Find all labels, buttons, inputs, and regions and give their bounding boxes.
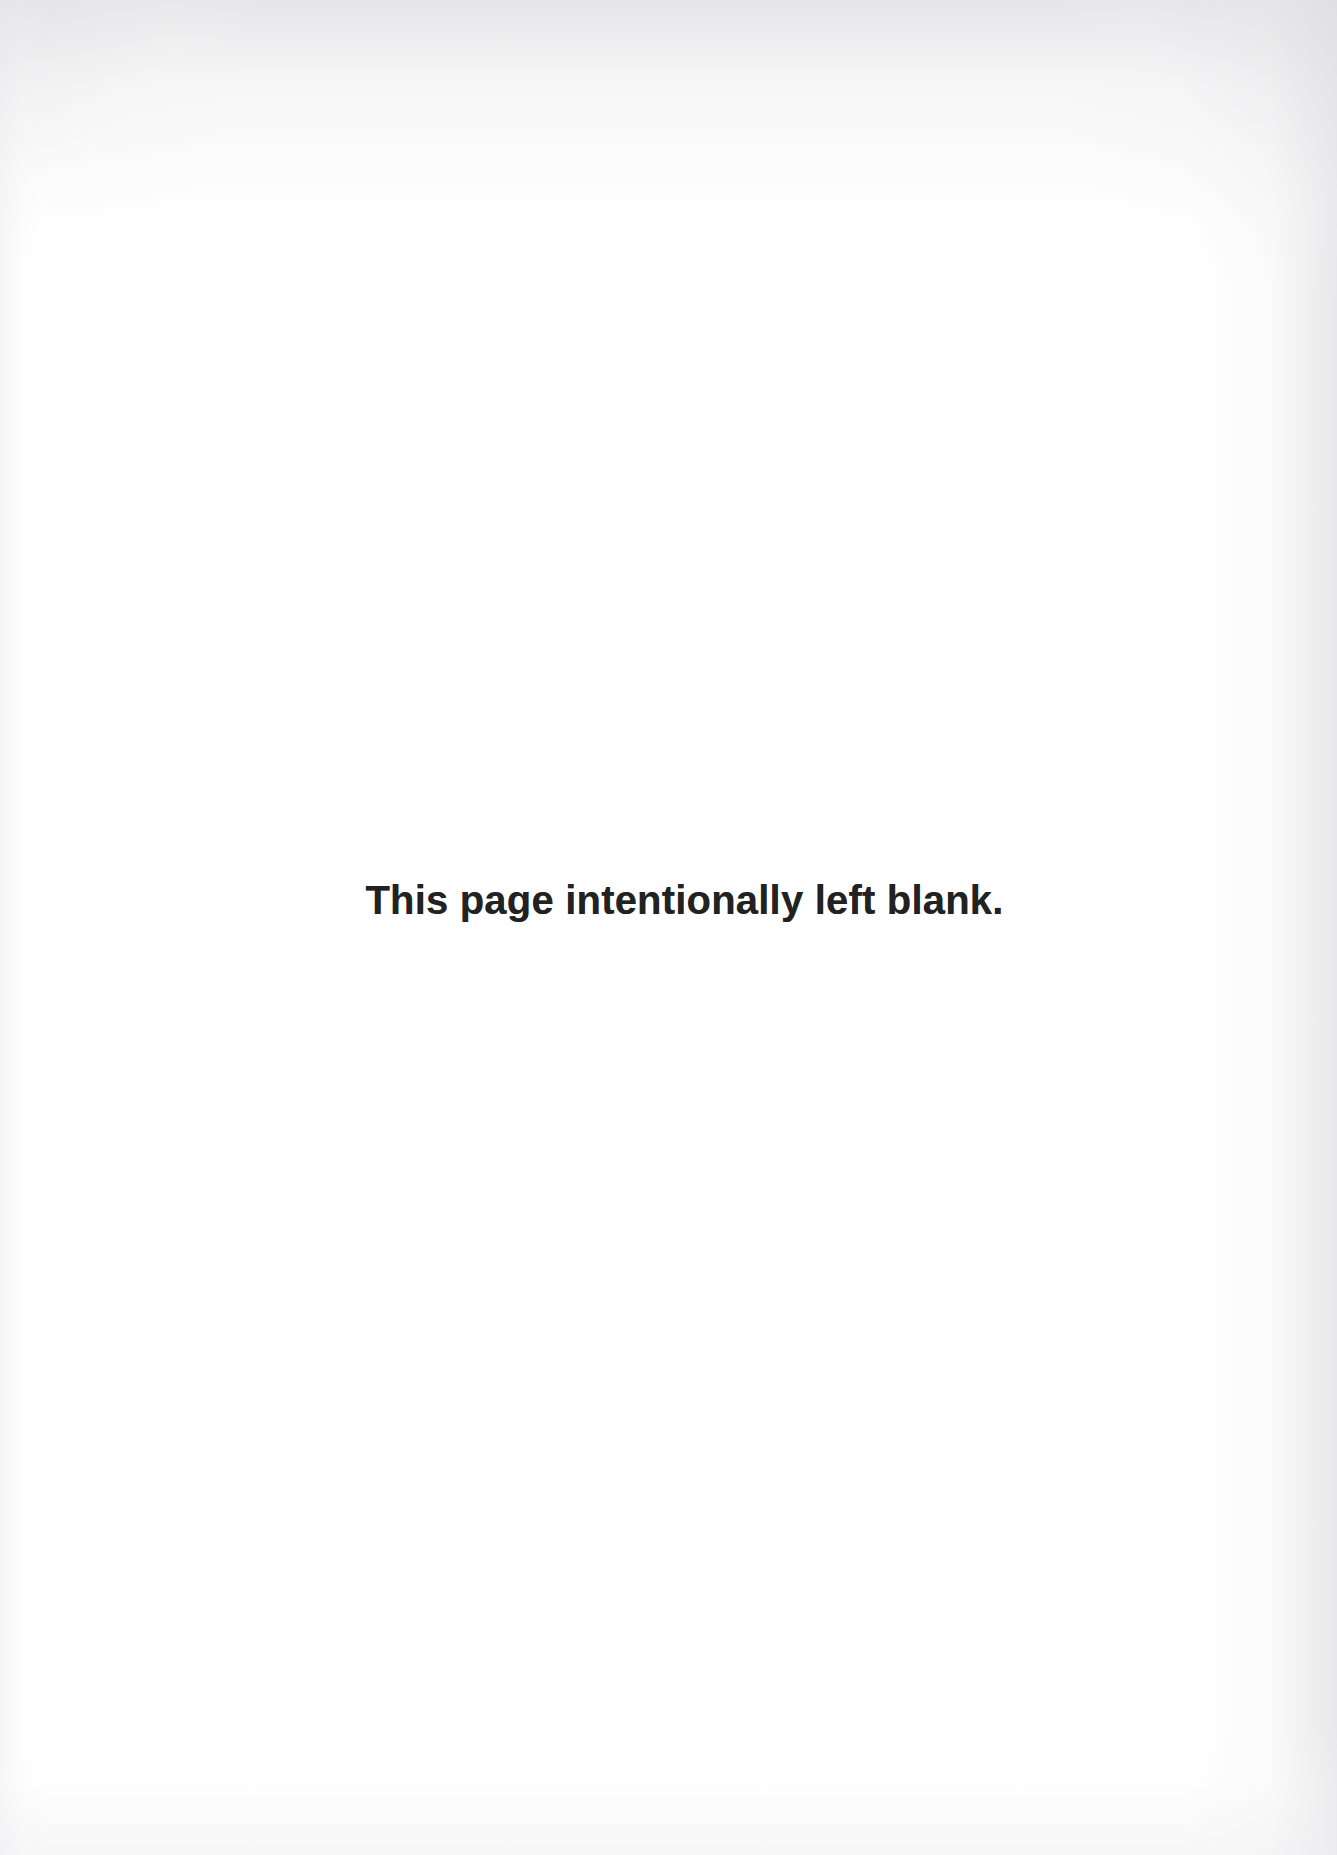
scan-corner-top-right bbox=[1037, 0, 1337, 300]
scan-edge-top bbox=[0, 0, 1337, 230]
scan-corner-top-left bbox=[0, 0, 260, 260]
blank-page-notice: This page intentionally left blank. bbox=[0, 877, 1337, 923]
scan-edge-left bbox=[0, 0, 46, 1855]
scanned-page: This page intentionally left blank. bbox=[0, 0, 1337, 1855]
scan-edge-right bbox=[1187, 0, 1337, 1855]
scan-edge-bottom bbox=[0, 1725, 1337, 1855]
scan-edge-shading bbox=[0, 0, 1337, 1855]
blank-page-notice-text: This page intentionally left blank. bbox=[365, 877, 1003, 923]
